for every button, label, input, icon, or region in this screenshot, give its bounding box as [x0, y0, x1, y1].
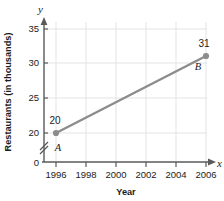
x-axis-arrow	[208, 159, 216, 166]
ytick-label-0: 0	[34, 157, 39, 168]
xtick-label-1996: 1996	[45, 169, 66, 180]
ytick-label-20: 20	[28, 127, 39, 138]
x-axis-ticks	[56, 162, 206, 167]
xtick-label-2006: 2006	[195, 169, 216, 180]
data-point-A-label: A	[54, 142, 62, 153]
data-point-B-label: B	[195, 61, 202, 72]
y-axis-title: Restaurants (in thousands)	[3, 33, 13, 152]
xtick-label-2002: 2002	[135, 169, 156, 180]
x-axis-variable-label: x	[216, 157, 222, 169]
y-axis-variable-label: y	[37, 3, 43, 15]
chart-figure: 35 30 25 20 0 1996 1998 2000 2002 2004 2…	[0, 0, 224, 201]
data-point-A-value: 20	[49, 115, 61, 126]
xtick-label-2000: 2000	[105, 169, 126, 180]
ytick-label-35: 35	[28, 23, 39, 34]
ytick-label-25: 25	[28, 92, 39, 103]
data-point-A-marker	[53, 130, 59, 136]
data-point-B-marker	[203, 53, 209, 59]
ytick-label-30: 30	[28, 57, 39, 68]
y-axis-arrow	[41, 17, 48, 25]
plot-area-background	[44, 22, 207, 162]
line-chart: 35 30 25 20 0 1996 1998 2000 2002 2004 2…	[0, 0, 224, 201]
data-point-B-value: 31	[198, 38, 210, 49]
xtick-label-2004: 2004	[165, 169, 186, 180]
x-axis-title: Year	[116, 187, 136, 197]
xtick-label-1998: 1998	[75, 169, 96, 180]
